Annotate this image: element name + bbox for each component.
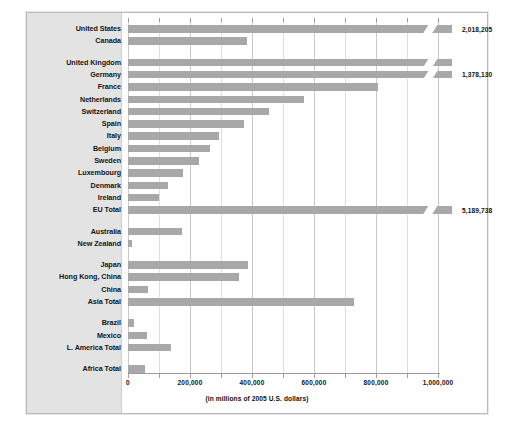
x-tick-top — [221, 18, 222, 22]
x-tick-top — [190, 18, 191, 22]
bar-row: Japan — [128, 261, 438, 269]
bar — [128, 206, 452, 214]
bar-row: Africa Total — [128, 365, 438, 373]
x-tick-top — [128, 18, 129, 22]
category-label: Ireland — [98, 194, 121, 201]
bar-row: Switzerland — [128, 108, 438, 116]
bar — [128, 132, 219, 140]
chart-frame: United StatesCanadaUnited KingdomGermany… — [26, 12, 488, 414]
bar-row: Denmark — [128, 182, 438, 190]
x-tick — [376, 374, 377, 378]
bar-row: China — [128, 286, 438, 294]
bar-row: France — [128, 83, 438, 91]
bar — [128, 169, 183, 177]
bar — [128, 145, 210, 153]
x-axis-caption: (in millions of 2005 U.S. dollars) — [27, 395, 487, 402]
x-tick — [159, 374, 160, 378]
category-label: China — [101, 286, 121, 293]
x-tick-top — [252, 18, 253, 22]
category-label: Denmark — [91, 182, 121, 189]
category-label: Netherlands — [80, 96, 121, 103]
bar — [128, 286, 148, 294]
category-label: Spain — [102, 120, 121, 127]
bar — [128, 120, 244, 128]
bar — [128, 332, 147, 340]
x-tick-top — [159, 18, 160, 22]
bar — [128, 157, 199, 165]
bar-row: Mexico — [128, 332, 438, 340]
bar — [128, 194, 159, 202]
bar-row: Hong Kong, China — [128, 273, 438, 281]
x-tick-label: 800,000 — [364, 379, 389, 386]
x-tick-label: 0 — [126, 379, 130, 386]
bar-row: Australia — [128, 228, 438, 236]
category-label: Australia — [91, 228, 121, 235]
bar-row: United States — [128, 25, 438, 33]
plot-area: United StatesCanadaUnited KingdomGermany… — [128, 21, 438, 373]
category-label: Switzerland — [82, 108, 121, 115]
bar-row: Brazil — [128, 319, 438, 327]
bar — [128, 108, 269, 116]
bar-row: Italy — [128, 132, 438, 140]
category-label: Luxembourg — [78, 169, 121, 176]
x-tick — [190, 374, 191, 378]
x-tick-top — [438, 18, 439, 22]
bar — [128, 71, 452, 79]
category-label: Hong Kong, China — [59, 273, 121, 280]
bar-row: New Zealand — [128, 240, 438, 248]
category-label: L. America Total — [67, 344, 121, 351]
category-label: Asia Total — [88, 298, 121, 305]
bar-row: Netherlands — [128, 96, 438, 104]
category-label: Japan — [100, 261, 121, 268]
bar — [128, 240, 132, 248]
x-tick-top — [376, 18, 377, 22]
bar — [128, 365, 145, 373]
x-tick-top — [407, 18, 408, 22]
bar-value-label: 5,189,738 — [462, 207, 492, 214]
bar-row: Luxembourg — [128, 169, 438, 177]
bar-row: EU Total — [128, 206, 438, 214]
bar — [128, 298, 354, 306]
category-label: Mexico — [97, 332, 121, 339]
bar — [128, 96, 304, 104]
bar-row: Asia Total — [128, 298, 438, 306]
category-label: Brazil — [102, 319, 121, 326]
x-tick — [407, 374, 408, 378]
bar — [128, 59, 452, 67]
category-label: Belgium — [93, 145, 121, 152]
category-label: EU Total — [93, 206, 121, 213]
x-tick — [345, 374, 346, 378]
bar-value-label: 1,378,130 — [462, 71, 492, 78]
bar — [128, 261, 248, 269]
x-tick — [221, 374, 222, 378]
category-label: United Kingdom — [66, 59, 121, 66]
category-label: New Zealand — [78, 240, 121, 247]
bar-row: United Kingdom — [128, 59, 438, 67]
x-tick-label: 400,000 — [240, 379, 265, 386]
bar — [128, 273, 239, 281]
x-tick — [314, 374, 315, 378]
bar-row: Belgium — [128, 145, 438, 153]
x-tick — [252, 374, 253, 378]
bar-value-label: 2,018,205 — [462, 26, 492, 33]
category-label: Italy — [107, 132, 121, 139]
x-tick — [438, 374, 439, 378]
category-label: France — [98, 83, 121, 90]
category-label: Sweden — [94, 157, 121, 164]
x-tick — [283, 374, 284, 378]
bar — [128, 319, 134, 327]
category-label: United States — [76, 25, 121, 32]
bar — [128, 228, 182, 236]
bar — [128, 25, 452, 33]
bar — [128, 344, 171, 352]
bar-row: Spain — [128, 120, 438, 128]
x-tick-top — [314, 18, 315, 22]
bar — [128, 182, 168, 190]
category-label: Canada — [95, 37, 121, 44]
x-tick-top — [283, 18, 284, 22]
bar-row: Ireland — [128, 194, 438, 202]
x-tick-top — [345, 18, 346, 22]
bar-row: Sweden — [128, 157, 438, 165]
x-tick-label: 200,000 — [178, 379, 203, 386]
bar — [128, 83, 378, 91]
